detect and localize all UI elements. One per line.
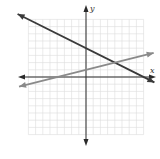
x-axis-left-arrow-icon	[18, 75, 25, 80]
coordinate-plane: x y	[0, 0, 160, 159]
x-axis	[18, 75, 156, 80]
y-axis-label: y	[89, 4, 95, 13]
y-axis-down-arrow-icon	[84, 139, 89, 146]
y-axis	[84, 5, 89, 146]
y-axis-up-arrow-icon	[84, 5, 89, 12]
x-axis-label: x	[150, 66, 155, 75]
